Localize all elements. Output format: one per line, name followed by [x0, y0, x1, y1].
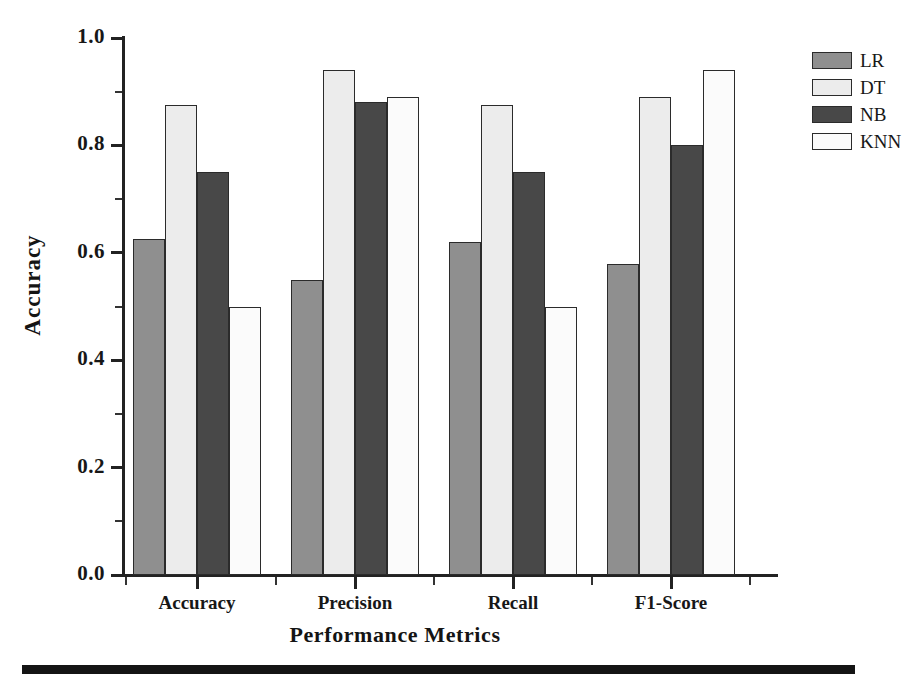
- legend-swatch-dt: [812, 79, 852, 96]
- legend-label-knn: KNN: [860, 131, 901, 153]
- legend-item-lr[interactable]: LR: [812, 48, 912, 73]
- bar-knn-recall: [545, 307, 577, 576]
- bar-dt-f1-score: [639, 97, 671, 575]
- y-tick-major: [111, 144, 122, 147]
- y-tick-major: [111, 359, 122, 362]
- page-scan-black-bar: [22, 665, 855, 674]
- x-tick-label-accuracy: Accuracy: [158, 592, 235, 614]
- figure-canvas: 0.00.20.40.60.81.0 AccuracyPrecisionReca…: [0, 0, 915, 692]
- y-tick-label: 0.0: [55, 561, 105, 586]
- y-tick-major: [111, 466, 122, 469]
- y-tick-label: 0.6: [55, 239, 105, 264]
- y-tick-minor: [115, 413, 122, 415]
- y-tick-major: [111, 37, 122, 40]
- bar-dt-accuracy: [165, 105, 197, 575]
- bar-lr-accuracy: [133, 239, 165, 575]
- y-axis-title: Accuracy: [20, 135, 46, 435]
- y-tick-label: 0.2: [55, 454, 105, 479]
- bar-lr-precision: [291, 280, 323, 575]
- legend-label-lr: LR: [860, 50, 884, 72]
- legend-item-dt[interactable]: DT: [812, 75, 912, 100]
- legend-swatch-lr: [812, 52, 852, 69]
- legend-label-dt: DT: [860, 77, 885, 99]
- y-tick-label: 0.8: [55, 131, 105, 156]
- y-tick-minor: [115, 520, 122, 522]
- bar-lr-f1-score: [607, 264, 639, 575]
- bars-layer: [124, 38, 775, 575]
- bar-nb-accuracy: [197, 172, 229, 575]
- legend-label-nb: NB: [860, 104, 886, 126]
- x-tick-label-f1-score: F1-Score: [635, 592, 707, 614]
- bar-knn-accuracy: [229, 307, 261, 576]
- bar-knn-precision: [387, 97, 419, 575]
- x-tick-minor: [591, 577, 593, 585]
- x-axis-title: Performance Metrics: [0, 622, 790, 648]
- bar-dt-recall: [481, 105, 513, 575]
- x-tick-minor: [433, 577, 435, 585]
- x-tick-major: [196, 577, 199, 589]
- x-tick-major: [512, 577, 515, 589]
- y-tick-major: [111, 574, 122, 577]
- y-tick-minor: [115, 306, 122, 308]
- y-tick-minor: [115, 91, 122, 93]
- legend-swatch-nb: [812, 106, 852, 123]
- y-tick-label: 1.0: [55, 24, 105, 49]
- x-tick-minor: [275, 577, 277, 585]
- y-tick-major: [111, 251, 122, 254]
- bar-nb-precision: [355, 102, 387, 575]
- x-tick-minor: [125, 577, 127, 585]
- y-tick-minor: [115, 198, 122, 200]
- x-tick-label-precision: Precision: [318, 592, 393, 614]
- x-tick-major: [670, 577, 673, 589]
- legend: LRDTNBKNN: [812, 48, 912, 156]
- bar-dt-precision: [323, 70, 355, 575]
- bar-lr-recall: [449, 242, 481, 575]
- bar-nb-recall: [513, 172, 545, 575]
- legend-item-knn[interactable]: KNN: [812, 129, 912, 154]
- legend-item-nb[interactable]: NB: [812, 102, 912, 127]
- x-tick-major: [354, 577, 357, 589]
- legend-swatch-knn: [812, 133, 852, 150]
- x-tick-label-recall: Recall: [488, 592, 539, 614]
- x-tick-minor: [749, 577, 751, 585]
- bar-nb-f1-score: [671, 145, 703, 575]
- bar-knn-f1-score: [703, 70, 735, 575]
- y-tick-label: 0.4: [55, 346, 105, 371]
